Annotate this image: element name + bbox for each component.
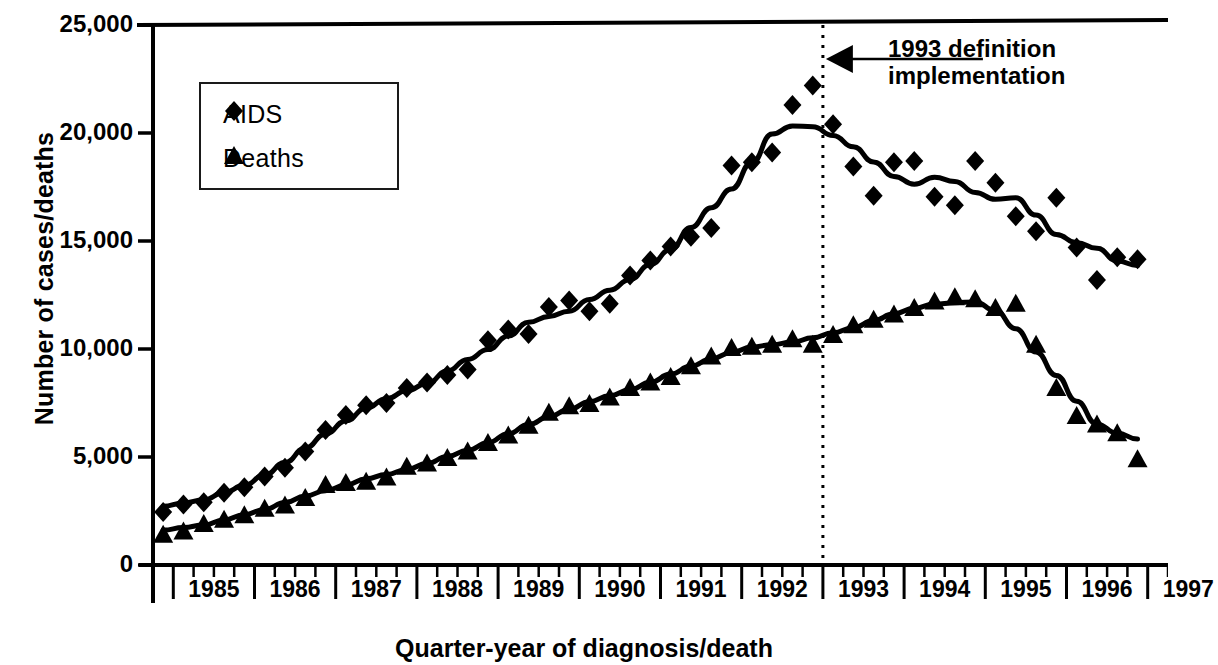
data-point-diamond: [1027, 221, 1045, 241]
data-point-diamond: [702, 218, 720, 238]
data-point-triangle: [1128, 449, 1148, 467]
x-axis-tick-label: 1987: [332, 576, 420, 603]
data-point-diamond: [946, 195, 964, 215]
x-axis-tick-label: 1993: [820, 576, 908, 603]
x-axis-tick-label: 1994: [901, 576, 989, 603]
data-point-diamond: [195, 492, 213, 512]
data-points-deaths: [153, 287, 1147, 543]
data-point-diamond: [1007, 206, 1025, 226]
legend-item-aids: AIDS: [223, 100, 283, 129]
data-point-diamond: [986, 173, 1004, 193]
diamond-marker-icon: [223, 100, 245, 122]
data-point-triangle: [539, 403, 559, 421]
y-axis-tick-label: 20,000: [60, 118, 133, 146]
data-point-diamond: [783, 95, 801, 115]
x-axis-tick-label: 1991: [657, 576, 745, 603]
annotation-1993-definition: 1993 definition implementation: [888, 36, 1065, 90]
y-axis-tick-label: 15,000: [60, 226, 133, 254]
y-axis-tick-label: 10,000: [60, 334, 133, 362]
data-point-triangle: [965, 289, 985, 307]
x-axis-title: Quarter-year of diagnosis/death: [0, 634, 1168, 663]
data-point-triangle: [945, 287, 965, 305]
x-axis-tick-label: 1990: [576, 576, 664, 603]
data-point-triangle: [316, 475, 336, 493]
y-axis-tick-label: 5,000: [73, 442, 133, 470]
data-point-diamond: [174, 495, 192, 515]
triangle-marker-icon: [223, 144, 245, 166]
data-point-diamond: [966, 151, 984, 171]
data-point-diamond: [1047, 188, 1065, 208]
annotation-arrow-head: [826, 45, 853, 73]
y-axis-tick-label: 25,000: [60, 10, 133, 38]
legend-item-deaths: Deaths: [223, 144, 304, 173]
data-point-triangle: [925, 291, 945, 309]
data-point-diamond: [905, 151, 923, 171]
x-axis-tick-label: 1996: [1063, 576, 1151, 603]
x-axis-tick-label: 1995: [982, 576, 1070, 603]
data-point-diamond: [601, 294, 619, 314]
data-point-diamond: [926, 187, 944, 207]
x-axis-tick-label: 1985: [170, 576, 258, 603]
x-axis-tick-label: 1992: [738, 576, 826, 603]
data-point-triangle: [1006, 294, 1026, 312]
data-point-diamond: [1088, 270, 1106, 290]
y-axis-tick-label: 0: [120, 550, 133, 578]
y-axis-title: Number of cases/deaths: [30, 49, 59, 509]
plot-top-border: [137, 20, 1168, 25]
data-point-triangle: [782, 329, 802, 347]
data-point-diamond: [844, 156, 862, 176]
data-point-diamond: [235, 477, 253, 497]
data-point-diamond: [418, 372, 436, 392]
x-axis-tick-label: 1988: [414, 576, 502, 603]
data-point-diamond: [215, 483, 233, 503]
data-point-diamond: [885, 152, 903, 172]
data-point-diamond: [763, 142, 781, 162]
annotation-line-2: implementation: [888, 63, 1065, 90]
data-point-diamond: [723, 155, 741, 175]
data-point-diamond: [865, 186, 883, 206]
x-axis-tick-label: 1986: [251, 576, 339, 603]
chart-legend: AIDS Deaths: [199, 82, 399, 190]
x-axis-tick-label: 1989: [495, 576, 583, 603]
x-axis-tick-label: 1997: [1144, 576, 1218, 603]
annotation-line-1: 1993 definition: [888, 36, 1065, 63]
data-point-triangle: [722, 338, 742, 356]
data-point-diamond: [804, 75, 822, 95]
